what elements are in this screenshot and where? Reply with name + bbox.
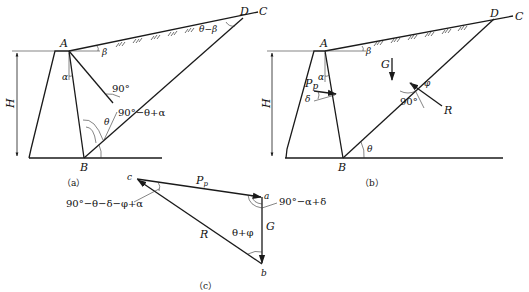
point-a-label-a: A	[59, 37, 68, 50]
backfill-surface-b	[325, 16, 513, 51]
caption-a: （a）	[62, 178, 85, 188]
passive-force-arrow	[314, 91, 336, 94]
slip-plane-a	[84, 18, 243, 158]
right-angle-label-b: 90°	[400, 96, 418, 107]
angle-b-label-a: 90°−θ+α	[118, 107, 166, 118]
vertex-c-label: c	[127, 172, 132, 182]
height-label-a: H	[4, 98, 17, 109]
retaining-wall-b	[286, 51, 343, 158]
height-label-b: H	[260, 98, 273, 109]
caption-b: （b）	[360, 178, 384, 188]
point-c-label-b: C	[515, 10, 524, 23]
right-angle-label-a: 90°	[112, 83, 130, 94]
angle-d-label-a: θ−β	[199, 24, 217, 34]
side-pp-label: Pp	[195, 174, 208, 188]
theta-label-b: θ	[367, 144, 373, 154]
panel-b: H α β Pp δ G R 90° φ θ A B D C （	[260, 7, 524, 188]
point-b-label-b: B	[337, 161, 346, 174]
reaction-label-b: R	[443, 104, 452, 117]
vertex-a-label: a	[264, 191, 269, 201]
force-diagram: H α β 90° 90°−θ+α θ θ−β A B D C （a）	[0, 0, 529, 292]
vertex-b-label: b	[261, 268, 267, 278]
point-d-label-a: D	[239, 5, 249, 18]
phi-label-b: φ	[424, 78, 431, 88]
point-c-label-a: C	[259, 5, 268, 18]
force-r-vector	[138, 180, 262, 264]
side-r-label: R	[199, 228, 208, 241]
delta-label-b: δ	[305, 94, 310, 104]
weight-label-b: G	[381, 58, 390, 71]
point-b-label-a: B	[79, 161, 88, 174]
angle-a-label: 90°−α+δ	[279, 196, 326, 207]
theta-label-a: θ	[104, 117, 110, 127]
point-d-label-b: D	[489, 7, 499, 20]
alpha-label-a: α	[62, 72, 68, 82]
panel-c: c a b Pp G R 90°−θ−δ−φ+α 90°−α+δ θ+φ （c）	[66, 172, 326, 291]
angle-c-label: 90°−θ−δ−φ+α	[66, 198, 143, 209]
beta-label-b: β	[365, 46, 371, 56]
soil-hatch-a	[116, 28, 194, 47]
caption-c: （c）	[194, 281, 217, 291]
point-a-label-b: A	[319, 37, 328, 50]
soil-hatch-b	[374, 26, 467, 46]
alpha-label-b: α	[318, 72, 324, 82]
backfill-surface-a	[69, 12, 258, 51]
angle-b-label: θ+φ	[232, 227, 253, 238]
side-g-label: G	[266, 220, 275, 233]
passive-force-label-b: Pp	[304, 77, 318, 91]
panel-a: H α β 90° 90°−θ+α θ θ−β A B D C （a）	[4, 5, 268, 188]
retaining-wall-a	[29, 51, 84, 158]
beta-label-a: β	[101, 47, 107, 57]
